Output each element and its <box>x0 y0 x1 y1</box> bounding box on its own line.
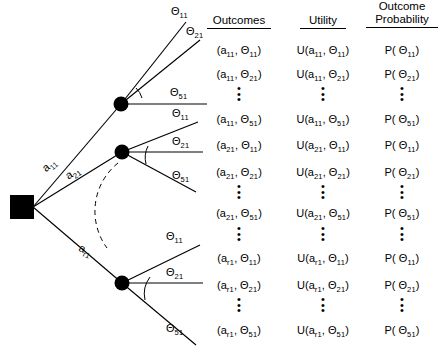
node1-branch-theta21 <box>121 40 200 104</box>
chance-node-2 <box>115 145 130 160</box>
ellipsis-vertical: • • • <box>196 297 282 314</box>
ellipsis-vertical: • • • <box>364 184 440 201</box>
chance-node-2-branches <box>122 122 203 192</box>
state-label-node2-theta51: Θ51 <box>172 170 189 184</box>
column-header-outcome-probability: Outcome Probability <box>364 0 440 29</box>
ellipsis-vertical: • • • <box>282 86 364 103</box>
chance-node-3 <box>115 276 130 291</box>
table-row: U(a11, Θ11) <box>282 45 364 60</box>
ellipsis-vertical: • • • <box>196 226 282 243</box>
table-row: (a11, Θ11) <box>196 45 282 60</box>
ellipsis-vertical: • • • <box>364 297 440 314</box>
table-row: (ar1, Θ51) <box>196 325 282 340</box>
chance-node-2-arc <box>145 146 148 164</box>
table-row: (a21, Θ51) <box>196 208 282 223</box>
action-branch-a11-line <box>33 104 121 207</box>
ellipsis-vertical: • • • <box>282 184 364 201</box>
node3-branch-theta51 <box>122 283 196 345</box>
column-outcomes: Outcomes (a11, Θ11) (a11, Θ21) • • • (a1… <box>196 0 282 30</box>
action-branch-ar1-line <box>33 207 122 283</box>
node3-branch-theta11 <box>122 245 200 283</box>
state-label-node3-theta21: Θ21 <box>166 267 183 281</box>
ellipsis-vertical: • • • <box>364 226 440 243</box>
state-label-node2-theta21: Θ21 <box>172 136 189 150</box>
ellipsis-vertical: • • • <box>282 297 364 314</box>
table-row: U(a21, Θ51) <box>282 208 364 223</box>
decision-tree-figure: a11 a21 ar1 Θ11 Θ21 Θ51 Θ11 Θ21 Θ51 Θ11 … <box>0 0 440 363</box>
column-outcome-probability: Outcome Probability P( Θ11) P( Θ21) • • … <box>364 0 440 29</box>
state-label-node1-theta51: Θ51 <box>170 87 187 101</box>
table-row: U(ar1, Θ11) <box>282 253 364 268</box>
column-utility: Utility U(a11, Θ11) U(a11, Θ21) • • • U(… <box>282 0 364 30</box>
table-row: P( Θ51) <box>364 114 440 129</box>
column-header-outcomes: Outcomes <box>196 14 282 30</box>
state-label-node1-theta11: Θ11 <box>171 6 188 20</box>
table-row: U(a11, Θ51) <box>282 114 364 129</box>
table-row: U(ar1, Θ51) <box>282 325 364 340</box>
table-row: (a21, Θ11) <box>196 140 282 155</box>
table-row: P( Θ11) <box>364 140 440 155</box>
header-underline-utility <box>300 28 346 29</box>
header-underline-outcomes <box>207 28 271 29</box>
state-label-node3-theta11: Θ11 <box>166 231 183 245</box>
table-row: (ar1, Θ11) <box>196 253 282 268</box>
chance-node-3-arc <box>144 277 150 300</box>
column-header-utility: Utility <box>282 14 364 30</box>
action-branch-lines <box>33 104 122 283</box>
chance-node-3-branches <box>122 245 203 345</box>
table-row: P( Θ51) <box>364 208 440 223</box>
table-row: U(a21, Θ11) <box>282 140 364 155</box>
table-row: (a11, Θ51) <box>196 114 282 129</box>
ellipsis-vertical: • • • <box>282 226 364 243</box>
table-row: P( Θ51) <box>364 325 440 340</box>
decision-node-square <box>10 195 34 219</box>
chance-node-1 <box>114 97 129 112</box>
state-label-node3-theta51: Θ51 <box>166 323 183 337</box>
table-row: P( Θ11) <box>364 45 440 60</box>
header-underline-outcome-probability <box>366 27 438 28</box>
state-label-node2-theta11: Θ11 <box>172 108 189 122</box>
action-fan-dashed-arc <box>95 163 118 248</box>
ellipsis-vertical: • • • <box>196 184 282 201</box>
ellipsis-vertical: • • • <box>364 86 440 103</box>
outcome-table: Outcomes (a11, Θ11) (a11, Θ21) • • • (a1… <box>196 0 440 363</box>
table-row: P( Θ11) <box>364 253 440 268</box>
ellipsis-vertical: • • • <box>196 86 282 103</box>
